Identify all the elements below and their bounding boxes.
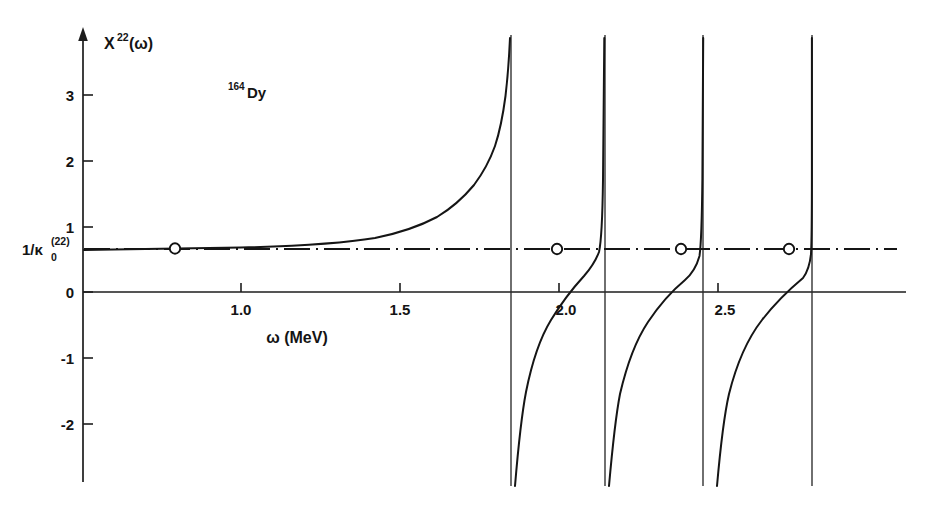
isotope-annotation: 164 Dy [228, 81, 267, 101]
y-tick-label-3: 3 [66, 87, 74, 104]
asymptote-group [511, 35, 812, 486]
y-tick-label-neg1: -1 [61, 350, 74, 367]
y-tick-label-neg2: -2 [61, 416, 74, 433]
x-tick-group: 1.0 1.5 2.0 2.5 [231, 283, 736, 318]
y-axis-arrow-icon [78, 27, 88, 41]
y-axis-label-argument: (ω) [129, 35, 153, 52]
y-tick-group: 3 2 1 0 -1 -2 [61, 87, 93, 433]
x-tick-label-2p5: 2.5 [715, 301, 736, 318]
x-axis-label: ω (MeV) [266, 329, 328, 346]
isotope-symbol: Dy [247, 84, 267, 101]
curve-branch-2 [609, 38, 703, 486]
figure-container: 3 2 1 0 -1 -2 1.0 1.5 2.0 2.5 [0, 0, 949, 511]
response-function-chart: 3 2 1 0 -1 -2 1.0 1.5 2.0 2.5 [0, 0, 949, 511]
reference-line-label: 1/κ 0 (22) [22, 235, 70, 263]
y-tick-label-0: 0 [66, 284, 74, 301]
root-marker-1 [170, 243, 180, 253]
axes-group [78, 27, 906, 482]
kappa-label-base: 1/κ [22, 241, 44, 258]
isotope-mass-number: 164 [228, 81, 245, 92]
y-axis-label-superscript: 22 [117, 31, 129, 43]
kappa-label-superscript: (22) [51, 235, 70, 247]
y-tick-label-1: 1 [66, 219, 74, 236]
curve-branch-3 [717, 38, 812, 486]
y-tick-label-2: 2 [66, 153, 74, 170]
curve-branch-1 [515, 38, 604, 486]
curve-branch-0 [84, 38, 510, 250]
root-marker-2 [552, 244, 562, 254]
kappa-label-subscript: 0 [51, 251, 57, 263]
y-axis-label: X 22 (ω) [104, 31, 153, 52]
root-marker-3 [676, 244, 686, 254]
x-tick-label-1p5: 1.5 [390, 301, 411, 318]
root-marker-4 [784, 244, 794, 254]
y-axis-label-base: X [104, 35, 115, 52]
x-tick-label-1p0: 1.0 [231, 301, 252, 318]
